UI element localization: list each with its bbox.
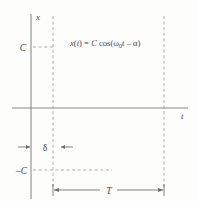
amplitude-negative-label: –C <box>15 166 28 176</box>
equation-close-paren: ) <box>138 38 141 48</box>
equation-cos: cos( <box>97 38 114 48</box>
equation-minus: – <box>124 38 133 48</box>
figure-background <box>0 0 198 201</box>
amplitude-positive-label: C <box>20 43 27 53</box>
equation-label: x(t) = C cos(ω0t – α) <box>69 38 141 49</box>
waveform-figure: x t C –C δ T x(t) = C cos(ω0t – α) <box>0 0 198 201</box>
y-axis-label: x <box>35 12 40 22</box>
figure-container: x t C –C δ T x(t) = C cos(ω0t – α) <box>0 0 198 201</box>
equation-equals: = <box>82 38 91 48</box>
phase-delay-label: δ <box>43 143 48 153</box>
period-label: T <box>106 186 112 196</box>
